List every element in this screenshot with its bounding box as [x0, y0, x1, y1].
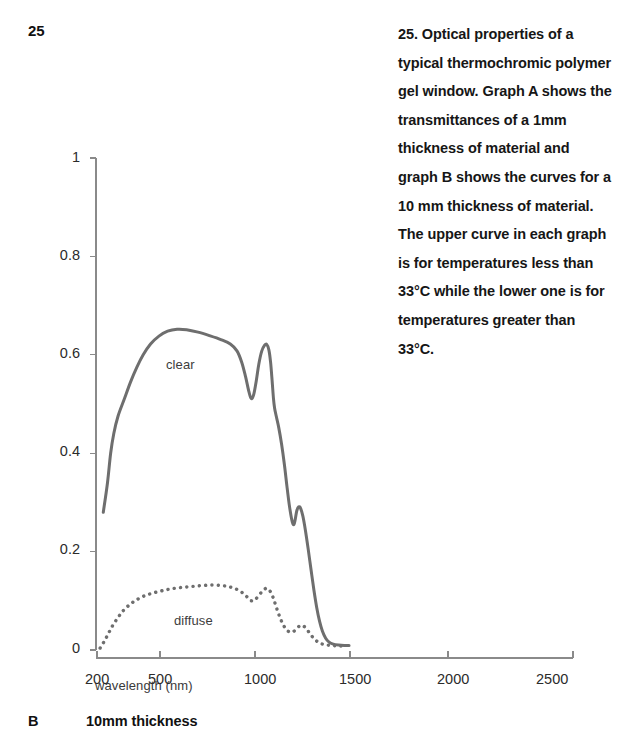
chart-figure: hemispherical transmittance wavelength (…: [0, 0, 627, 700]
series-curve-diffuse: [100, 585, 346, 648]
series-curve-clear: [103, 329, 349, 645]
series-group: [100, 329, 349, 648]
axes-group: [90, 158, 573, 658]
panel-letter: B: [28, 713, 38, 729]
plot-area: [0, 0, 627, 700]
panel-caption: 10mm thickness: [86, 713, 197, 729]
